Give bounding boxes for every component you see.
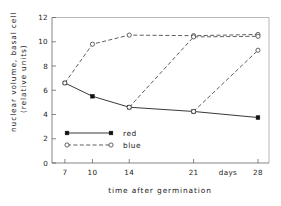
x-axis-title: time after germination (108, 186, 211, 195)
data-point-blue (256, 34, 260, 38)
legend-label-red: red (123, 129, 137, 138)
x-tick-label: 14 (124, 168, 134, 177)
data-point-blue (65, 143, 69, 147)
data-series-layer (63, 32, 260, 119)
data-point-blue (109, 143, 113, 147)
y-tick-label: 0 (43, 159, 48, 168)
y-tick-label: 12 (38, 13, 48, 22)
y-tick-label: 6 (43, 86, 48, 95)
data-point-blue (127, 33, 131, 37)
y-tick-label: 10 (38, 37, 48, 46)
y-tick-label: 4 (43, 110, 48, 119)
chart-figure: 024681012 710142128 nuclear volume, basa… (0, 0, 281, 206)
y-tick-label: 8 (43, 62, 48, 71)
data-point-blue (256, 48, 260, 52)
data-point-red (65, 131, 69, 135)
x-tick-label: 7 (62, 168, 67, 177)
x-tick-label: 28 (253, 168, 263, 177)
data-point-blue (192, 109, 196, 113)
plot-frame (52, 18, 269, 164)
x-axis-unit-label: days (219, 168, 238, 177)
series-line-red (65, 83, 258, 118)
y-axis-title-line2: (relative units) (19, 44, 28, 113)
chart-canvas: 024681012 710142128 nuclear volume, basa… (0, 0, 281, 206)
data-point-red (109, 131, 113, 135)
legend-label-blue: blue (123, 141, 141, 150)
data-point-blue (90, 42, 94, 46)
series-line-blue (65, 34, 258, 83)
y-axis-ticks: 024681012 (38, 13, 56, 168)
series-line-blue (129, 36, 258, 107)
y-tick-label: 2 (43, 134, 48, 143)
y-axis-title: nuclear volume, basal cell (relative uni… (9, 12, 28, 132)
series-line-blue (194, 50, 258, 111)
y-axis-title-line1: nuclear volume, basal cell (9, 12, 18, 132)
data-point-blue (192, 35, 196, 39)
data-point-red (91, 95, 95, 99)
data-point-red (256, 116, 260, 120)
chart-legend: redblue (65, 129, 141, 150)
x-tick-label: 10 (88, 168, 98, 177)
x-tick-label: 21 (189, 168, 199, 177)
data-point-blue (127, 105, 131, 109)
data-point-blue (63, 81, 67, 85)
